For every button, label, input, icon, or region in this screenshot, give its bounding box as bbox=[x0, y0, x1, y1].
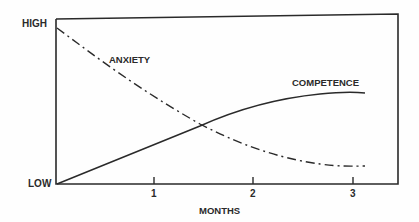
y-high-label: HIGH bbox=[22, 18, 47, 29]
competence-line bbox=[57, 92, 365, 184]
plot-frame bbox=[56, 14, 398, 184]
anxiety-label: ANXIETY bbox=[109, 54, 151, 65]
anxiety-line bbox=[57, 28, 365, 166]
competence-label: COMPETENCE bbox=[292, 77, 359, 88]
chart-canvas: HIGH LOW 1 2 3 MONTHS ANXIETY COMPETENCE bbox=[0, 0, 419, 222]
x-axis-label: MONTHS bbox=[199, 205, 240, 216]
x-tick-label-2: 2 bbox=[250, 188, 256, 199]
y-low-label: LOW bbox=[28, 178, 52, 189]
x-tick-label-3: 3 bbox=[350, 188, 356, 199]
anxiety-competence-chart: HIGH LOW 1 2 3 MONTHS ANXIETY COMPETENCE bbox=[0, 0, 419, 222]
x-tick-label-1: 1 bbox=[151, 188, 157, 199]
